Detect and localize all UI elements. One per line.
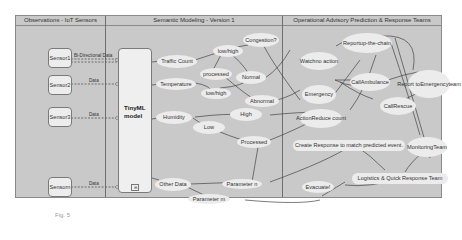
call-rescue-node[interactable]: CallRescue: [380, 97, 416, 115]
sensor-3-node[interactable]: Sensor3: [48, 107, 72, 127]
report-emergency-team-node[interactable]: Report toEmergencyteam: [408, 70, 450, 98]
traffic-count-node[interactable]: Traffic Count: [157, 55, 197, 68]
model-label: TinyMLmodel: [124, 104, 146, 120]
tinyml-model-node[interactable]: TinyMLmodel ⊞: [118, 48, 152, 193]
congestion-node[interactable]: Congestion?: [243, 33, 279, 47]
edge-label-data: Data: [89, 78, 99, 83]
sensor-n-node[interactable]: Sensorn: [48, 177, 72, 197]
temperature-node[interactable]: Temperature: [156, 78, 196, 90]
sensor-1-node[interactable]: Sensor1: [48, 48, 72, 68]
monitoring-team-node[interactable]: MonitoringTeam: [407, 137, 447, 157]
edge-label-bidirectional: Bi-Directional Data: [74, 53, 112, 58]
normal-node[interactable]: Normal: [236, 71, 266, 84]
lowhigh-node-2[interactable]: low/high: [201, 88, 231, 99]
low-node[interactable]: Low: [193, 121, 225, 134]
other-data-node[interactable]: Other Data: [155, 178, 191, 191]
processed-node-1[interactable]: processed: [200, 68, 232, 80]
logistics-team-node[interactable]: Logistics & Quick Response Team: [352, 173, 448, 184]
action-reduce-count-node[interactable]: ActionReduce count: [300, 109, 342, 128]
sensor-2-node[interactable]: Sensor2: [48, 75, 72, 95]
report-up-chain-node[interactable]: Reportup-the-chain: [342, 33, 392, 53]
lowhigh-node-1[interactable]: low/high: [213, 45, 243, 57]
figure-caption: Fig. 5: [55, 212, 70, 218]
call-ambulance-node[interactable]: CallAmbulance: [350, 73, 390, 91]
expand-icon[interactable]: ⊞: [131, 184, 139, 191]
create-response-node[interactable]: Create Response to match predicted event…: [293, 140, 405, 151]
parameter-n-node[interactable]: Parameter n: [222, 179, 262, 189]
high-node[interactable]: High: [230, 108, 262, 121]
parameter-m-node[interactable]: Parameter m: [188, 194, 230, 204]
emergency-node[interactable]: Emergency: [302, 85, 336, 104]
humidity-node[interactable]: Humidity: [156, 111, 192, 124]
evacuate-node[interactable]: Evacuate!: [302, 181, 334, 193]
abnormal-node[interactable]: Abnormal: [245, 95, 279, 107]
edge-label-data: Data: [89, 112, 99, 117]
watch-node[interactable]: Watchno action: [300, 52, 338, 70]
processed-node-2[interactable]: Processed: [237, 136, 271, 148]
edge-label-data: Data: [89, 181, 99, 186]
